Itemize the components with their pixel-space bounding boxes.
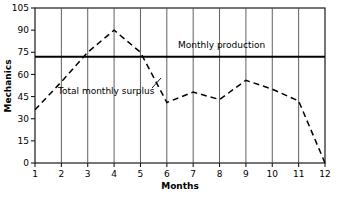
x-tick-label: 9 <box>243 169 249 179</box>
y-tick-label: 0 <box>23 158 29 168</box>
x-tick-label: 11 <box>293 169 304 179</box>
x-tick-label: 4 <box>111 169 117 179</box>
x-axis-title: Months <box>161 181 199 191</box>
x-tick-label: 10 <box>267 169 279 179</box>
y-tick-label: 45 <box>18 92 29 102</box>
y-tick-label: 15 <box>18 136 29 146</box>
chart-figure: 0153045607590105 123456789101112 Monthly… <box>0 0 338 197</box>
y-axis-title: Mechanics <box>3 59 13 112</box>
x-tick-label: 8 <box>217 169 223 179</box>
y-tick-label: 75 <box>18 47 29 57</box>
y-tick-label: 90 <box>18 25 30 35</box>
x-tick-label: 3 <box>85 169 91 179</box>
x-tick-label: 5 <box>138 169 144 179</box>
y-tick-label: 30 <box>18 114 30 124</box>
chart-background <box>0 0 338 197</box>
total-monthly-surplus-annotation: Total monthly surplus <box>57 86 155 96</box>
x-tick-label: 1 <box>32 169 38 179</box>
y-tick-label: 105 <box>12 3 29 13</box>
x-tick-label: 12 <box>319 169 330 179</box>
x-tick-label: 2 <box>58 169 64 179</box>
x-tick-label: 7 <box>190 169 196 179</box>
line-chart: 0153045607590105 123456789101112 Monthly… <box>0 0 338 197</box>
monthly-production-annotation: Monthly production <box>178 40 265 50</box>
y-tick-label: 60 <box>18 70 30 80</box>
x-tick-label: 6 <box>164 169 170 179</box>
